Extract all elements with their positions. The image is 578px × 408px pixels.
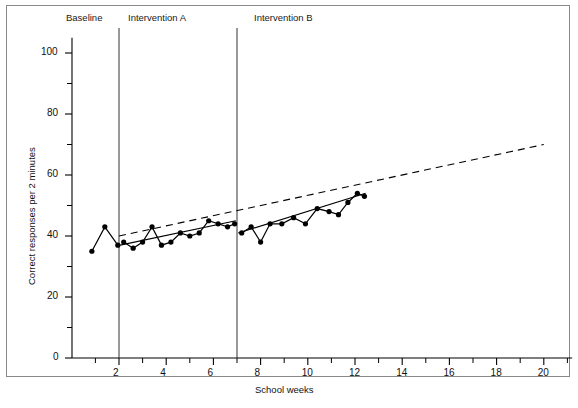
phase-label-intervention-b: Intervention B — [254, 12, 313, 23]
y-tick-label: 100 — [41, 46, 58, 57]
data-point — [279, 221, 284, 226]
series-line-0 — [92, 227, 118, 251]
data-point — [115, 243, 120, 248]
data-point — [336, 212, 341, 217]
x-tick-label: 18 — [491, 367, 502, 378]
x-tick-label: 14 — [396, 367, 407, 378]
x-tick-label: 2 — [113, 367, 119, 378]
x-tick-label: 4 — [160, 367, 166, 378]
phase-label-baseline: Baseline — [66, 12, 102, 23]
data-point — [131, 246, 136, 251]
data-point — [197, 230, 202, 235]
data-point — [326, 209, 331, 214]
series-line-2 — [242, 193, 365, 242]
series-line-5 — [119, 145, 544, 237]
data-point — [225, 224, 230, 229]
y-axis-title: Correct responses per 2 minutes — [26, 147, 37, 285]
x-tick-label: 12 — [349, 367, 360, 378]
data-point — [168, 240, 173, 245]
x-tick-label: 8 — [255, 367, 261, 378]
y-tick-label: 40 — [47, 229, 58, 240]
y-tick-label: 20 — [47, 290, 58, 301]
phase-label-intervention-a: Intervention A — [128, 12, 186, 23]
data-point — [102, 224, 107, 229]
x-tick-label: 6 — [207, 367, 213, 378]
data-point — [258, 240, 263, 245]
x-tick-label: 10 — [302, 367, 313, 378]
y-tick-label: 60 — [47, 168, 58, 179]
y-tick-label: 0 — [53, 351, 59, 362]
series-line-4 — [238, 193, 365, 233]
data-point — [303, 221, 308, 226]
series-line-3 — [120, 221, 236, 245]
data-point — [345, 200, 350, 205]
data-point — [206, 218, 211, 223]
x-tick-label: 16 — [443, 367, 454, 378]
data-point — [159, 243, 164, 248]
data-point — [187, 233, 192, 238]
y-tick-label: 80 — [47, 107, 58, 118]
data-point — [89, 249, 94, 254]
figure-container: Baseline Intervention A Intervention B S… — [0, 0, 578, 408]
data-point — [149, 224, 154, 229]
x-axis-title: School weeks — [255, 384, 314, 395]
x-tick-label: 20 — [538, 367, 549, 378]
chart-plot-area — [0, 0, 578, 408]
